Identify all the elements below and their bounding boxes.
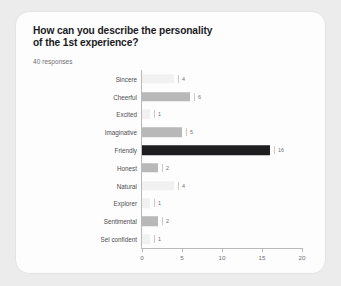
bar-value-label: 2	[166, 165, 169, 171]
bar-value-label: 1	[158, 236, 161, 242]
survey-result-card: How can you describe the personality of …	[15, 11, 326, 274]
bar-row[interactable]: Natural4	[16, 177, 326, 195]
bar-value-label: 5	[190, 129, 193, 135]
category-label: Sel confident	[101, 236, 137, 243]
value-marker	[194, 93, 195, 101]
bar-chart: 05101520 Sincere4Cheerful6Excited1Imagin…	[16, 12, 326, 274]
bar-value-label: 6	[198, 94, 201, 100]
value-marker	[162, 217, 163, 225]
x-axis-tick-label: 20	[299, 254, 306, 261]
value-marker	[162, 164, 163, 172]
category-label: Sincere	[116, 75, 137, 82]
bar-value-label: 2	[166, 218, 169, 224]
category-label: Excited	[116, 111, 137, 118]
category-label: Natural	[117, 182, 137, 189]
category-label: Explorer	[114, 200, 137, 207]
bar[interactable]	[142, 92, 190, 102]
x-axis-tick	[222, 248, 223, 252]
bar-row[interactable]: Imaginative5	[16, 123, 326, 141]
x-axis-tick	[302, 248, 303, 252]
bar[interactable]	[142, 234, 150, 244]
x-axis-tick	[182, 248, 183, 252]
value-marker	[154, 110, 155, 118]
bar[interactable]	[142, 199, 150, 209]
bar[interactable]	[142, 217, 158, 227]
category-label: Sentimental	[104, 218, 137, 225]
bar-value-label: 1	[158, 111, 161, 117]
category-label: Imaginative	[105, 129, 137, 136]
x-axis-tick	[262, 248, 263, 252]
bar-value-label: 16	[278, 147, 284, 153]
x-axis-tick-label: 15	[259, 254, 266, 261]
bar-row[interactable]: Sentimental2	[16, 212, 326, 230]
bar-value-label: 4	[182, 183, 185, 189]
value-marker	[186, 128, 187, 136]
x-axis-tick	[142, 248, 143, 252]
category-label: Friendly	[115, 147, 137, 154]
category-label: Cheerful	[113, 93, 137, 100]
bar[interactable]	[142, 110, 150, 120]
bar-value-label: 1	[158, 200, 161, 206]
x-axis-tick-label: 5	[180, 254, 183, 261]
bar-row[interactable]: Friendly16	[16, 141, 326, 159]
value-marker	[178, 75, 179, 83]
bar-row[interactable]: Sincere4	[16, 70, 326, 88]
bar-value-label: 4	[182, 76, 185, 82]
bar[interactable]	[142, 74, 174, 84]
bar-row[interactable]: Explorer1	[16, 195, 326, 213]
bar-row[interactable]: Excited1	[16, 106, 326, 124]
category-label: Honest	[117, 164, 137, 171]
value-marker	[154, 199, 155, 207]
bar[interactable]	[142, 128, 182, 138]
bar-row[interactable]: Sel confident1	[16, 230, 326, 248]
value-marker	[154, 235, 155, 243]
x-axis-tick-label: 0	[140, 254, 143, 261]
value-marker	[178, 182, 179, 190]
bar[interactable]	[142, 181, 174, 191]
bar-row[interactable]: Cheerful6	[16, 88, 326, 106]
value-marker	[274, 146, 275, 154]
x-axis-tick-label: 10	[219, 254, 226, 261]
bar-row[interactable]: Honest2	[16, 159, 326, 177]
page-background: How can you describe the personality of …	[0, 0, 341, 286]
bar[interactable]	[142, 163, 158, 173]
bar[interactable]	[142, 145, 270, 155]
